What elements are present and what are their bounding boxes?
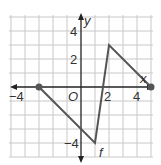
tick-x-4: 4 xyxy=(133,89,140,104)
function-label: f xyxy=(99,145,104,160)
endpoint-left xyxy=(36,84,43,91)
x-axis-label: x xyxy=(139,71,147,86)
endpoint-right xyxy=(148,84,155,91)
origin-label: O xyxy=(68,89,78,104)
tick-y-4: 4 xyxy=(70,24,77,39)
tick-y-2: 2 xyxy=(70,52,77,67)
y-axis-arrow-down-icon xyxy=(78,156,84,163)
tick-x-neg4: −4 xyxy=(9,89,24,104)
tick-y-neg4: −4 xyxy=(64,136,79,151)
graph: y x O f −4 2 4 4 2 −4 xyxy=(0,0,161,165)
y-axis-label: y xyxy=(83,13,92,28)
tick-x-2: 2 xyxy=(104,89,111,104)
